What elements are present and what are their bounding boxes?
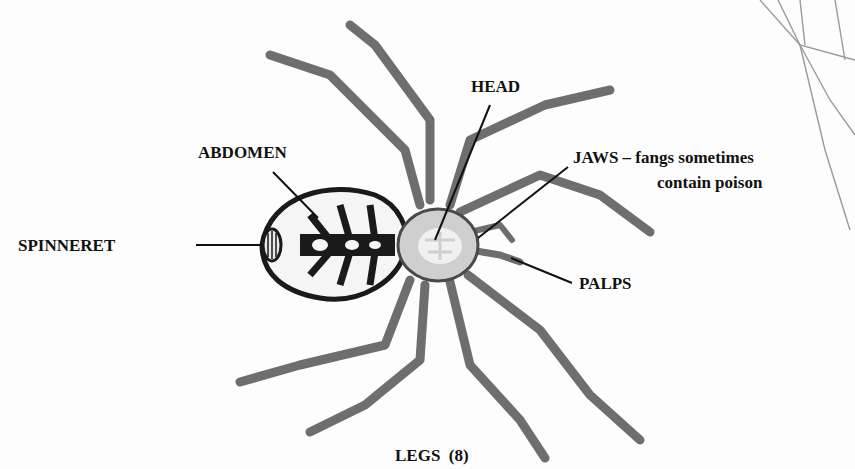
spider-illustration xyxy=(0,0,855,469)
spider-head xyxy=(398,209,478,281)
label-spinneret: SPINNERET xyxy=(18,235,115,256)
spider-diagram: HEAD ABDOMEN SPINNERET JAWS – fangs some… xyxy=(0,0,855,469)
spinneret xyxy=(263,229,281,261)
label-jaws-note: contain poison xyxy=(657,172,762,193)
label-abdomen: ABDOMEN xyxy=(198,142,287,163)
palps-leader xyxy=(511,258,572,283)
jaws-leader xyxy=(478,167,568,238)
spider-web xyxy=(760,0,855,230)
label-head: HEAD xyxy=(471,76,520,97)
spider-abdomen xyxy=(262,189,406,299)
label-legs: LEGS (8) xyxy=(395,445,469,466)
label-jaws: JAWS – fangs sometimes xyxy=(573,147,754,168)
label-palps: PALPS xyxy=(579,273,632,294)
